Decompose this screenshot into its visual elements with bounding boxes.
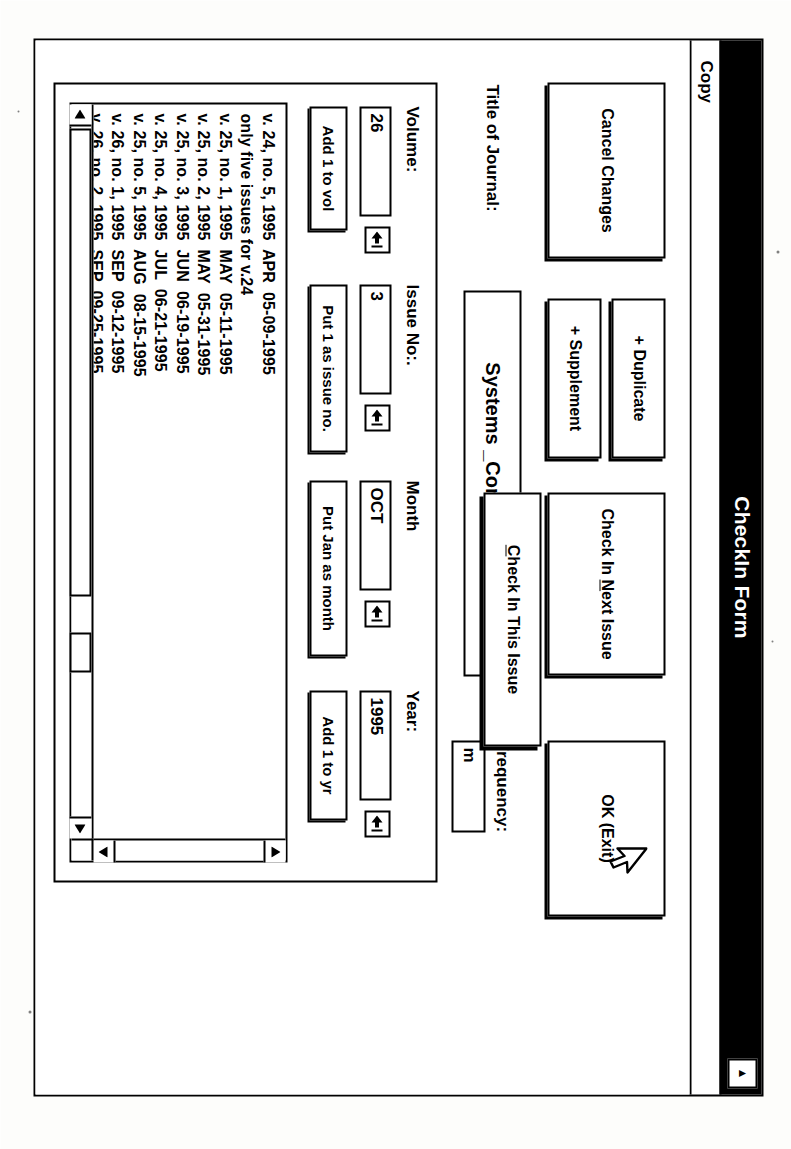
scroll-down-button[interactable] xyxy=(93,840,115,862)
scrollbar-corner xyxy=(71,838,93,860)
check-in-next-issue-label: Check In Next Issue xyxy=(597,508,615,659)
list-vertical-scrollbar[interactable] xyxy=(93,838,285,860)
add-1-to-vol-button[interactable]: Add 1 to vol xyxy=(309,106,347,230)
add-1-to-yr-button[interactable]: Add 1 to yr xyxy=(309,690,347,820)
scroll-down-icon xyxy=(98,846,108,857)
scan-speck xyxy=(771,640,773,642)
volume-label: Volume: xyxy=(401,106,421,172)
issue-no-label: Issue No:. xyxy=(401,284,421,365)
put-1-as-issue-no-button[interactable]: Put 1 as issue no. xyxy=(309,284,347,452)
minimize-button[interactable]: ▲ xyxy=(727,1058,757,1088)
month-spin-button[interactable] xyxy=(364,600,390,627)
checkin-form-window: CheckIn Form ▲ Copy Cancel Changes + Dup… xyxy=(33,38,763,1096)
scan-speck xyxy=(17,110,19,112)
volume-field[interactable]: 26 xyxy=(359,106,391,216)
cin-pre: Check In xyxy=(598,508,615,579)
scroll-left-button[interactable] xyxy=(69,104,91,126)
spin-arrow-icon xyxy=(371,815,384,832)
horizontal-scroll-page-mark[interactable] xyxy=(69,632,91,672)
issue-list-rows: v. 24, no. 5, 1995 APR 05-09-1995only fi… xyxy=(93,104,285,838)
volume-value: 26 xyxy=(365,113,385,132)
cti-post: heck In This Issue xyxy=(504,556,521,694)
list-item[interactable]: v. 26, no. 2, 1995 SEP 09-25-1995 xyxy=(93,113,106,838)
horizontal-scroll-thumb[interactable] xyxy=(69,128,91,596)
put-jan-as-month-label: Put Jan as month xyxy=(320,505,337,630)
list-horizontal-scrollbar[interactable] xyxy=(71,104,93,838)
scroll-up-button[interactable] xyxy=(263,840,285,862)
scan-speck xyxy=(28,1010,31,1013)
issue-entry-groupbox: Volume: 26 Add 1 to vol Issue No:. 3 xyxy=(53,82,437,882)
put-1-as-issue-no-label: Put 1 as issue no. xyxy=(320,305,337,432)
client-area: Cancel Changes + Duplicate + Supplement … xyxy=(35,40,689,1094)
scroll-right-icon xyxy=(75,823,86,833)
frequency-value: m xyxy=(458,747,478,762)
month-field[interactable]: OCT xyxy=(359,480,391,590)
year-spin-button[interactable] xyxy=(364,810,390,837)
list-item[interactable]: v. 26, no. 1, 1995 SEP 09-12-1995 xyxy=(106,113,128,838)
scroll-left-icon xyxy=(75,109,86,119)
cin-post: ext Issue xyxy=(598,591,615,659)
month-value: OCT xyxy=(365,487,385,523)
year-field[interactable]: 1995 xyxy=(359,690,391,800)
duplicate-button[interactable]: + Duplicate xyxy=(611,298,665,458)
supplement-button[interactable]: + Supplement xyxy=(547,298,601,458)
duplicate-label: + Duplicate xyxy=(629,335,647,421)
list-item[interactable]: v. 25, no. 1, 1995 MAY 05-11-1995 xyxy=(214,113,236,838)
issue-no-value: 3 xyxy=(365,291,385,300)
scroll-up-icon xyxy=(270,846,280,857)
check-in-this-issue-label: Check In This Issue xyxy=(503,544,521,693)
frequency-field[interactable]: m xyxy=(451,740,485,832)
menu-bar: Copy xyxy=(689,40,719,1094)
issue-no-spin-button[interactable] xyxy=(364,404,390,431)
scroll-right-button[interactable] xyxy=(69,816,91,838)
cancel-changes-label: Cancel Changes xyxy=(597,108,615,232)
cti-accesskey: C xyxy=(504,544,521,556)
cancel-changes-button[interactable]: Cancel Changes xyxy=(547,82,665,258)
ok-exit-label: OK (Exit) xyxy=(597,794,615,862)
put-jan-as-month-button[interactable]: Put Jan as month xyxy=(309,480,347,656)
rotated-canvas: CheckIn Form ▲ Copy Cancel Changes + Dup… xyxy=(0,0,791,1149)
list-item[interactable]: v. 24, no. 5, 1995 APR 05-09-1995 xyxy=(257,113,279,838)
list-item[interactable]: v. 25, no. 3, 1995 JUN 06-19-1995 xyxy=(171,113,193,838)
window-title: CheckIn Form xyxy=(729,496,753,638)
minimize-icon: ▲ xyxy=(736,1067,748,1079)
list-item[interactable]: v. 25, no. 5, 1995 AUG 08-15-1995 xyxy=(128,113,150,838)
list-item[interactable]: v. 25, no. 2, 1995 MAY 05-31-1995 xyxy=(192,113,214,838)
add-1-to-vol-label: Add 1 to vol xyxy=(320,125,337,211)
list-item[interactable]: v. 25, no. 4, 1995 JUL 06-21-1995 xyxy=(149,113,171,838)
frequency-label: Frequency: xyxy=(491,740,511,832)
add-1-to-yr-label: Add 1 to yr xyxy=(320,716,337,794)
issue-no-field[interactable]: 3 xyxy=(359,284,391,394)
year-label: Year: xyxy=(401,690,421,732)
supplement-label: + Supplement xyxy=(565,325,583,430)
title-bar: CheckIn Form ▲ xyxy=(719,40,761,1094)
year-value: 1995 xyxy=(365,697,385,735)
menu-item-copy[interactable]: Copy xyxy=(695,54,715,109)
scan-speck xyxy=(776,250,779,253)
check-in-this-issue-button[interactable]: Check In This Issue xyxy=(483,492,541,746)
cin-accesskey: N xyxy=(598,579,615,591)
title-of-journal-label: Title of Journal: xyxy=(481,84,501,211)
check-in-next-issue-button[interactable]: Check In Next Issue xyxy=(547,492,665,675)
ok-exit-button[interactable]: OK (Exit) xyxy=(547,740,665,916)
issue-list-box[interactable]: v. 24, no. 5, 1995 APR 05-09-1995only fi… xyxy=(69,102,287,862)
spin-arrow-icon xyxy=(371,605,384,622)
spin-arrow-icon xyxy=(371,231,384,248)
spin-arrow-icon xyxy=(371,409,384,426)
list-item[interactable]: only five issues for v.24 xyxy=(235,113,257,838)
month-label: Month xyxy=(401,480,421,531)
volume-spin-button[interactable] xyxy=(364,226,390,253)
